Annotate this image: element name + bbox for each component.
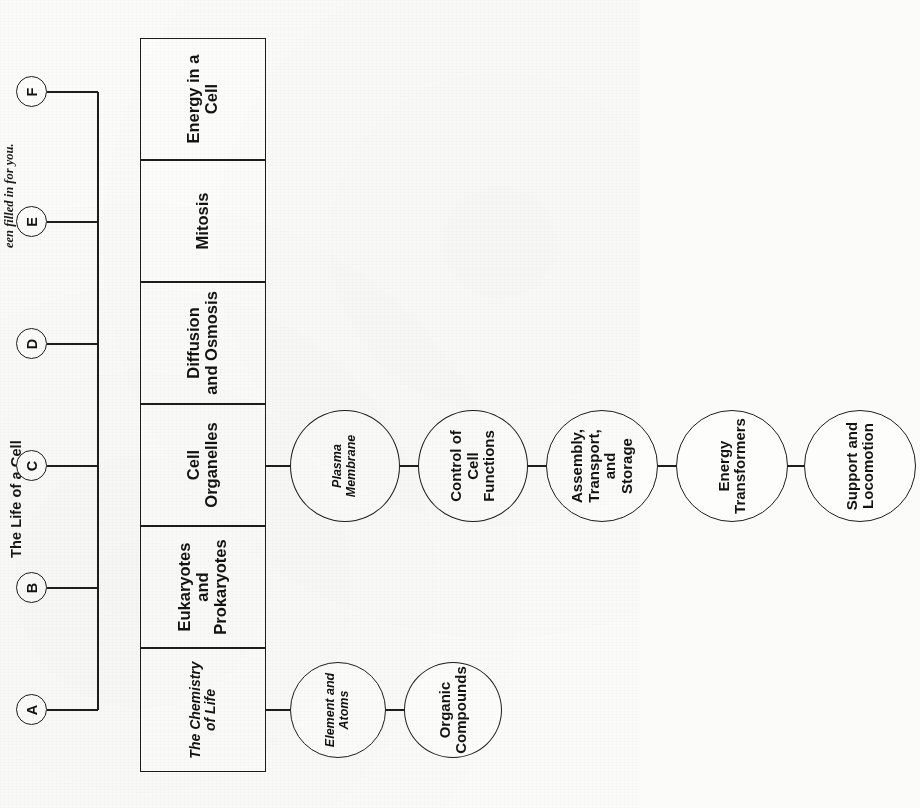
branch-c-node-1-label: PlasmaMembrane [331,429,359,504]
branch-c-node-4[interactable]: EnergyTransformers [676,410,788,522]
branch-c-node-5-label: Support andLocomotion [844,416,877,516]
main-box-b-label: EukaryotesandProkaryotes [176,534,229,639]
main-box-a[interactable]: The Chemistryof Life [140,648,266,772]
branch-a-node-2-label: OrganicCompounds [437,660,470,760]
branch-c-node-3[interactable]: Assembly,Transport, andStorage [546,410,658,522]
branch-c-node-2[interactable]: Control ofCell Functions [418,410,528,522]
main-box-b[interactable]: EukaryotesandProkaryotes [140,526,266,648]
main-box-c-label: CellOrganelles [185,417,221,512]
main-box-d-label: Diffusionand Osmosis [185,286,221,400]
main-box-f-label: Energy in aCell [185,50,221,149]
branch-c-node-3-label: Assembly,Transport, andStorage [569,411,635,521]
main-box-a-label: The Chemistryof Life [188,656,218,763]
main-box-d[interactable]: Diffusionand Osmosis [140,282,266,404]
main-box-e-label: Mitosis [194,188,212,255]
branch-a-node-1[interactable]: Element andAtoms [290,662,386,758]
instruction-text: een filled in for you. [2,143,17,248]
branch-a-node-2[interactable]: OrganicCompounds [404,662,502,758]
branch-c-node-2-label: Control ofCell Functions [448,411,498,521]
main-box-c[interactable]: CellOrganelles [140,404,266,526]
branch-c-node-5[interactable]: Support andLocomotion [804,410,916,522]
main-box-e[interactable]: Mitosis [140,160,266,282]
branch-c-node-1[interactable]: PlasmaMembrane [290,410,400,522]
branch-a-node-1-label: Element andAtoms [324,667,352,753]
branch-c-node-4-label: EnergyTransformers [716,412,749,520]
main-box-f[interactable]: Energy in aCell [140,38,266,160]
